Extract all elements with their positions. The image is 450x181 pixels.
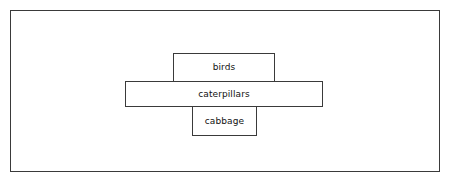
trophic-level-stack: birds caterpillars cabbage (11, 11, 441, 173)
trophic-level-box-cabbage[interactable]: cabbage (192, 106, 257, 136)
trophic-level-box-caterpillars[interactable]: caterpillars (125, 81, 323, 107)
trophic-level-label-birds: birds (213, 63, 236, 72)
trophic-level-box-birds[interactable]: birds (173, 53, 275, 82)
diagram-canvas: birds caterpillars cabbage (0, 0, 450, 181)
diagram-outer-frame: birds caterpillars cabbage (10, 10, 440, 172)
trophic-level-label-cabbage: cabbage (205, 117, 244, 126)
trophic-level-label-caterpillars: caterpillars (198, 90, 250, 99)
